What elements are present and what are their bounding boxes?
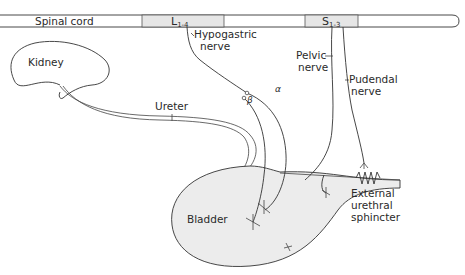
kidney: Kidney — [11, 41, 109, 98]
kidney-label: Kidney — [28, 56, 64, 68]
ureter-label: Ureter — [155, 100, 189, 112]
spinal-cord-label: Spinal cord — [35, 15, 94, 27]
pelvic-label-line1: Pelvic — [296, 49, 326, 61]
hypogastric-label-line2: nerve — [200, 40, 230, 52]
bladder-label: Bladder — [187, 213, 228, 225]
alpha-label: α — [275, 84, 281, 94]
pudendal-label-line1: Pudendal — [349, 73, 398, 85]
beta-ganglion-icon — [242, 96, 246, 100]
sphincter-label-line3: sphincter — [351, 211, 401, 223]
hypogastric-label-line1: Hypogastric — [194, 28, 257, 40]
sphincter-label-line2: urethral — [351, 199, 393, 211]
sphincter-label-line1: External — [351, 187, 395, 199]
spinal-cord: Spinal cord L1-4 S1-3 — [0, 15, 459, 29]
pudendal-label-line2: nerve — [351, 85, 381, 97]
pelvic-label-line2: nerve — [298, 61, 328, 73]
beta-label: β — [246, 95, 253, 105]
pudendal-nerve: Pudendal nerve — [343, 27, 398, 169]
pudendal-ending-icon — [360, 163, 368, 169]
kidney-outline — [11, 41, 109, 98]
bladder-innervation-diagram: Spinal cord L1-4 S1-3 Kidney Ureter Blad… — [0, 0, 465, 275]
ureter: Ureter — [60, 86, 256, 178]
